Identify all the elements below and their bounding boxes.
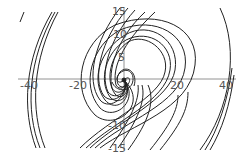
x-tick-label: -40 <box>20 79 38 92</box>
axes <box>18 8 236 150</box>
y-tick-label: 5 <box>118 51 125 64</box>
y-tick-label: -10 <box>108 119 126 132</box>
plot-canvas: -40 -20 20 40 15 10 5 -10 -15 <box>0 0 247 159</box>
y-tick-label: 10 <box>113 28 127 41</box>
x-tick-label: 20 <box>170 79 184 92</box>
x-tick-label: 40 <box>219 79 233 92</box>
x-tick-label: -20 <box>69 79 87 92</box>
y-tick-label: 15 <box>112 5 126 18</box>
y-tick-label: -15 <box>108 142 126 155</box>
phase-portrait-plot: -40 -20 20 40 15 10 5 -10 -15 <box>0 0 247 159</box>
